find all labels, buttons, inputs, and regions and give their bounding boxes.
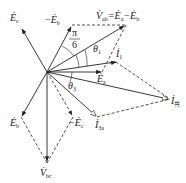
label-ea: Ėa bbox=[96, 73, 106, 85]
label-vbc: V̇bc bbox=[40, 167, 52, 179]
label-eb: Ėb bbox=[9, 117, 19, 129]
label-ec: Ėc bbox=[9, 12, 19, 24]
phasor-i3a bbox=[47, 72, 96, 116]
phasor-neg-ec bbox=[47, 72, 72, 115]
label-i3a: İ3a bbox=[94, 119, 104, 131]
label-vab-equation: V̇ab=Ėa−Ėb bbox=[96, 10, 139, 22]
phasor-eb bbox=[22, 72, 47, 116]
label-theta3: θ3 bbox=[68, 80, 76, 92]
phasor-ec bbox=[22, 29, 47, 72]
phasor-vab bbox=[47, 26, 124, 72]
label-theta1: θ1 bbox=[93, 43, 101, 55]
dashed-i3a-to-igong bbox=[97, 99, 170, 117]
label-igong: İ共 bbox=[170, 95, 180, 108]
label-neg-ec: −Ėc bbox=[69, 117, 84, 129]
label-six: 6 bbox=[72, 39, 77, 50]
arc-theta1-b bbox=[85, 50, 87, 66]
label-neg-eb: −Ėb bbox=[45, 14, 60, 26]
label-i1: İ1 bbox=[115, 48, 122, 60]
label-pi: π bbox=[72, 27, 77, 38]
phasor-diagram: Ėc −Ėb V̇ab=Ėa−Ėb π 6 θ1 İ1 Ėa θ3 İ共 İ3a… bbox=[0, 0, 186, 183]
arc-theta1 bbox=[76, 55, 79, 67]
dashed-eb-to-vbc bbox=[21, 117, 47, 163]
